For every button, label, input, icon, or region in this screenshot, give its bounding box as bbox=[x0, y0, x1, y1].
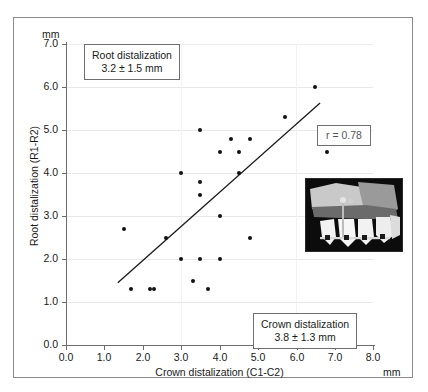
y-axis-unit-label: mm bbox=[42, 28, 60, 40]
x-tick-label-8: 8.0 bbox=[356, 352, 390, 363]
gridline-y-4 bbox=[66, 173, 373, 174]
x-axis-unit-label: mm bbox=[383, 366, 401, 378]
x-tick-0 bbox=[66, 345, 67, 350]
data-point bbox=[198, 180, 202, 184]
y-tick-label-1: 1.0 bbox=[30, 296, 58, 307]
data-point bbox=[191, 279, 195, 283]
data-point bbox=[248, 137, 252, 141]
y-axis-title: Root distalization (R1-R2) bbox=[28, 76, 40, 296]
crown-callout-line1: Crown distalization bbox=[261, 318, 349, 331]
x-tick-label-0: 0.0 bbox=[49, 352, 83, 363]
gridline-y-1 bbox=[66, 302, 373, 303]
x-tick-4 bbox=[220, 345, 221, 350]
root-distalization-callout: Root distalization 3.2 ± 1.5 mm bbox=[84, 44, 180, 80]
y-tick-3 bbox=[62, 216, 67, 217]
x-tick-label-1: 1.0 bbox=[87, 352, 121, 363]
y-tick-7 bbox=[62, 44, 67, 45]
gridline-y-6 bbox=[66, 87, 373, 88]
data-point bbox=[237, 150, 241, 154]
y-tick-5 bbox=[62, 130, 67, 131]
x-tick-label-6: 6.0 bbox=[280, 352, 314, 363]
data-point bbox=[218, 257, 222, 261]
scatter-plot-figure: 7.0 6.0 5.0 4.0 3.0 2.0 1.0 0.0 0.0 1.0 … bbox=[0, 0, 428, 392]
x-tick-1 bbox=[104, 345, 105, 350]
x-tick-8 bbox=[373, 345, 374, 350]
data-point bbox=[218, 214, 222, 218]
x-tick-label-4: 4.0 bbox=[203, 352, 237, 363]
data-point bbox=[218, 150, 222, 154]
radiograph-illustration-icon bbox=[306, 179, 402, 251]
x-tick-label-5: 5.0 bbox=[241, 352, 275, 363]
y-tick-1 bbox=[62, 302, 67, 303]
y-tick-label-0: 0.0 bbox=[30, 339, 58, 350]
x-tick-3 bbox=[181, 345, 182, 350]
x-axis-title: Crown distalization (C1-C2) bbox=[66, 366, 373, 378]
data-point bbox=[237, 171, 241, 175]
data-point bbox=[122, 227, 126, 231]
y-tick-6 bbox=[62, 87, 67, 88]
crown-distalization-callout: Crown distalization 3.8 ± 1.3 mm bbox=[253, 313, 357, 349]
root-callout-line2: 3.2 ± 1.5 mm bbox=[92, 62, 172, 75]
x-tick-label-3: 3.0 bbox=[164, 352, 198, 363]
x-tick-label-2: 2.0 bbox=[126, 352, 160, 363]
correlation-value: r = 0.78 bbox=[326, 129, 362, 142]
data-point bbox=[283, 115, 287, 119]
data-point bbox=[325, 150, 329, 154]
data-point bbox=[248, 236, 252, 240]
gridline-x-3 bbox=[181, 44, 182, 345]
root-callout-line1: Root distalization bbox=[92, 49, 172, 62]
data-point bbox=[198, 193, 202, 197]
crown-callout-line2: 3.8 ± 1.3 mm bbox=[261, 331, 349, 344]
y-tick-4 bbox=[62, 173, 67, 174]
correlation-callout: r = 0.78 bbox=[317, 125, 371, 146]
data-point bbox=[229, 137, 233, 141]
y-tick-2 bbox=[62, 259, 67, 260]
x-tick-label-7: 7.0 bbox=[318, 352, 352, 363]
data-point bbox=[164, 236, 168, 240]
gridline-x-6 bbox=[296, 44, 297, 345]
x-tick-2 bbox=[143, 345, 144, 350]
orthodontic-radiograph-inset bbox=[305, 178, 403, 252]
